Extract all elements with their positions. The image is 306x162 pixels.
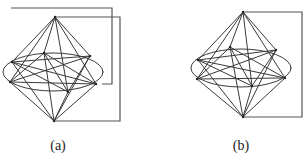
- vertex-dot: [229, 46, 231, 48]
- edge-bottom: [243, 78, 285, 117]
- vertex-dot: [197, 59, 199, 61]
- vertex-dot: [67, 91, 69, 93]
- caption-b: (b): [233, 138, 249, 154]
- vertex-dot: [43, 52, 45, 54]
- equator-chord: [12, 62, 68, 92]
- caption-a: (a): [50, 138, 66, 154]
- vertex-dot: [89, 55, 91, 57]
- vertex-dot: [54, 16, 56, 18]
- vertex-dot: [95, 83, 97, 85]
- edge-top: [10, 17, 55, 82]
- vertex-dot: [11, 61, 13, 63]
- diagram-canvas: [0, 0, 306, 162]
- vertex-dot: [242, 116, 244, 118]
- vertex-dot: [275, 49, 277, 51]
- vertex-dot: [196, 78, 198, 80]
- figure-a-bipyramid: [3, 8, 120, 122]
- equator-chord: [12, 62, 96, 84]
- vertex-dot: [251, 85, 253, 87]
- edge-top: [243, 12, 276, 50]
- vertex-dot: [284, 77, 286, 79]
- edge-bottom: [44, 53, 54, 121]
- figure-b-bipyramid: [191, 11, 302, 118]
- edge-bottom: [230, 47, 243, 117]
- edge-bottom: [197, 79, 243, 117]
- frame-outline: [11, 8, 112, 84]
- equator-chord: [252, 50, 276, 86]
- edge-bottom: [54, 92, 68, 121]
- equator-chord: [68, 56, 90, 92]
- edge-bottom: [10, 82, 54, 121]
- vertex-dot: [53, 120, 55, 122]
- frame-outline: [243, 12, 302, 117]
- edge-top: [230, 12, 243, 47]
- vertex-dot: [242, 11, 244, 13]
- equator-chord: [197, 78, 285, 79]
- edge-top: [197, 12, 243, 79]
- edge-top: [198, 12, 243, 60]
- vertex-dot: [9, 81, 11, 83]
